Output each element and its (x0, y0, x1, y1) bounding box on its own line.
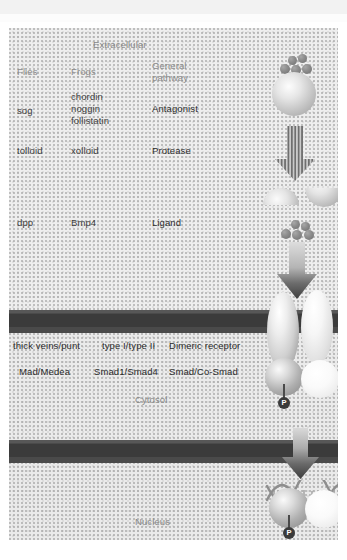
row-antagonist-general: Antagonist (152, 103, 198, 115)
free-ligand-beads (275, 220, 331, 242)
row-antagonist-frogs-line1: chordin (71, 91, 103, 103)
bmp-signaling-pathway-figure: Extracellular Cytosol Nucleus Flies Frog… (0, 0, 347, 560)
caption-band (0, 0, 347, 14)
column-header-frogs: Frogs (71, 66, 96, 78)
row-receptor-general: Dimeric receptor (169, 340, 240, 352)
label-nucleus: Nucleus (135, 516, 170, 528)
row-protease-general: Protease (152, 145, 191, 157)
caption-text (9, 1, 329, 13)
diagram-panel: Extracellular Cytosol Nucleus Flies Frog… (9, 28, 338, 540)
row-smad-frogs: Smad1/Smad4 (94, 366, 158, 378)
column-header-general-line1: General (152, 60, 187, 72)
label-cytosol: Cytosol (135, 394, 167, 406)
ligand-bead (281, 229, 291, 239)
row-ligand-general: Ligand (152, 217, 181, 229)
row-protease-frogs: xolloid (71, 145, 99, 157)
ligand-bead (292, 230, 302, 240)
row-protease-flies: tolloid (17, 145, 43, 157)
protease-arrow-striped (274, 126, 316, 182)
receptor-subunit-type2 (301, 290, 333, 364)
row-ligand-flies: dpp (17, 217, 33, 229)
co-smad-sphere-cytosol (301, 360, 338, 398)
row-smad-general: Smad/Co-Smad (169, 366, 238, 378)
row-smad-flies: Mad/Medea (19, 366, 70, 378)
half-sphere-body (263, 188, 299, 205)
row-antagonist-frogs-line2: noggin (71, 103, 100, 115)
column-header-flies: Flies (17, 66, 38, 78)
caption-band-spacer (0, 14, 347, 22)
ligand-bead (302, 64, 312, 74)
ligand-bead (304, 230, 314, 240)
ligand-bead (288, 56, 297, 65)
phosphate-badge-nucleus: P (283, 527, 295, 539)
cleaved-antagonist-half-left (263, 188, 299, 205)
row-antagonist-flies: sog (17, 105, 33, 117)
phosphate-badge-cytosol: P (278, 397, 290, 409)
ligand-bead (291, 220, 300, 229)
label-extracellular: Extracellular (93, 39, 147, 51)
bound-ligand-beads (274, 54, 334, 76)
column-header-general-line2: pathway (152, 72, 188, 84)
row-antagonist-frogs-line3: follistatin (71, 115, 109, 127)
row-receptor-flies: thick veins/punt (13, 340, 80, 352)
antagonist-sphere (272, 72, 316, 116)
nuclear-translocation-arrow (281, 428, 321, 480)
row-receptor-frogs: type I/type II (102, 340, 155, 352)
co-smad-sphere-nucleus (305, 490, 338, 528)
row-ligand-frogs: Bmp4 (71, 217, 96, 229)
ligand-bead (298, 54, 307, 63)
